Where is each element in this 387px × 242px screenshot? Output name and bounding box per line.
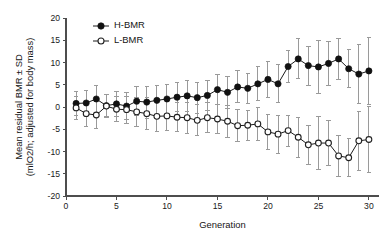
x-axis-title: Generation (199, 219, 245, 230)
data-point-h-bmr (366, 68, 372, 74)
data-point-h-bmr (265, 76, 271, 82)
data-point-l-bmr (134, 109, 140, 115)
y-axis-title-line2: (mlO2/h; adjusted for body mass) (24, 38, 35, 177)
x-tick-label: 25 (314, 201, 324, 211)
x-tick-label: 30 (364, 201, 374, 211)
y-tick-label: 20 (50, 13, 60, 23)
data-point-h-bmr (174, 94, 180, 100)
y-tick-label: -15 (48, 169, 61, 179)
data-point-h-bmr (224, 89, 230, 95)
x-tick-label: 0 (64, 201, 69, 211)
data-point-h-bmr (164, 96, 170, 102)
data-point-l-bmr (366, 137, 372, 143)
legend-label-h-bmr: H-BMR (114, 19, 145, 30)
data-point-h-bmr (336, 56, 342, 62)
x-tick-label: 15 (213, 201, 223, 211)
y-tick-label: -20 (48, 191, 61, 201)
data-point-h-bmr (154, 97, 160, 103)
data-point-l-bmr (124, 107, 130, 113)
data-point-h-bmr (305, 63, 311, 69)
data-point-l-bmr (275, 131, 281, 137)
data-point-l-bmr (235, 123, 241, 129)
x-tick-label: 5 (114, 201, 119, 211)
data-point-h-bmr (184, 93, 190, 99)
data-point-l-bmr (114, 106, 120, 112)
data-point-h-bmr (204, 92, 210, 98)
data-point-h-bmr (144, 99, 150, 105)
y-tick-label: 5 (55, 80, 60, 90)
bmr-divergence-chart: -20-15-10-505101520 051015202530 H-BMRL-… (0, 0, 387, 242)
data-point-l-bmr (225, 118, 231, 124)
data-point-h-bmr (83, 100, 89, 106)
legend-label-l-bmr: L-BMR (114, 34, 143, 45)
data-point-h-bmr (275, 81, 281, 87)
data-point-h-bmr (235, 84, 241, 90)
data-point-l-bmr (194, 117, 200, 123)
y-axis-ticks: -20-15-10-505101520 (48, 13, 66, 201)
data-points (73, 56, 372, 161)
data-point-l-bmr (255, 121, 261, 127)
data-point-l-bmr (73, 105, 79, 111)
x-tick-label: 20 (263, 201, 273, 211)
data-point-h-bmr (315, 64, 321, 70)
data-point-l-bmr (93, 112, 99, 118)
series-lines (76, 59, 369, 158)
data-point-h-bmr (93, 96, 99, 102)
data-point-l-bmr (285, 128, 291, 134)
y-tick-label: -10 (48, 147, 61, 157)
data-point-l-bmr (103, 103, 109, 109)
data-point-l-bmr (305, 142, 311, 148)
y-tick-label: -5 (52, 124, 60, 134)
data-point-l-bmr (265, 129, 271, 135)
data-point-l-bmr (326, 140, 332, 146)
data-point-l-bmr (184, 115, 190, 121)
data-point-h-bmr (346, 66, 352, 72)
y-tick-label: 0 (55, 102, 60, 112)
chart-container: -20-15-10-505101520 051015202530 H-BMRL-… (0, 0, 387, 242)
y-tick-label: 15 (50, 35, 60, 45)
data-point-l-bmr (164, 113, 170, 119)
data-point-l-bmr (204, 115, 210, 121)
series-line-h-bmr (76, 59, 369, 106)
data-point-h-bmr (194, 95, 200, 101)
x-tick-label: 10 (162, 201, 172, 211)
x-axis-ticks: 051015202530 (64, 196, 374, 211)
data-point-l-bmr (356, 138, 362, 144)
data-point-h-bmr (295, 56, 301, 62)
y-tick-label: 10 (50, 58, 60, 68)
data-point-l-bmr (154, 113, 160, 119)
data-point-h-bmr (134, 98, 140, 104)
data-point-h-bmr (285, 63, 291, 69)
data-point-h-bmr (255, 81, 261, 87)
data-point-h-bmr (356, 71, 362, 77)
data-point-l-bmr (144, 111, 150, 117)
series-line-l-bmr (76, 106, 369, 158)
data-point-l-bmr (83, 111, 89, 117)
data-point-l-bmr (174, 114, 180, 120)
y-axis-title-line1: Mean residual BMR ± SD (13, 54, 24, 160)
data-point-l-bmr (295, 134, 301, 140)
data-point-h-bmr (325, 60, 331, 66)
data-point-l-bmr (215, 116, 221, 122)
data-point-h-bmr (245, 85, 251, 91)
data-point-l-bmr (245, 122, 251, 128)
data-point-l-bmr (346, 155, 352, 161)
data-point-h-bmr (214, 87, 220, 93)
chart-legend: H-BMRL-BMR (93, 19, 145, 45)
data-point-l-bmr (316, 140, 322, 146)
data-point-l-bmr (336, 153, 342, 159)
